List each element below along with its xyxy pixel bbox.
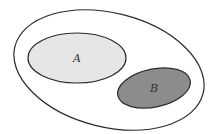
set-a-label: A	[72, 52, 81, 65]
set-b-label: B	[149, 82, 158, 95]
venn-diagram: A B	[0, 0, 213, 134]
